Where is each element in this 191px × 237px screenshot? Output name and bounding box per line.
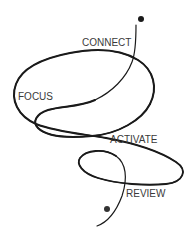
inner-loop [35, 100, 150, 137]
label-connect: CONNECT [82, 38, 131, 48]
diagram-canvas: CONNECT FOCUS ACTIVATE REVIEW [0, 0, 191, 237]
lower-loop [79, 138, 183, 185]
start-dot [138, 16, 144, 22]
end-dot [104, 206, 110, 212]
label-focus: FOCUS [18, 92, 53, 102]
label-activate: ACTIVATE [110, 135, 157, 145]
label-review: REVIEW [126, 189, 165, 199]
loop-path-graphic [0, 0, 191, 237]
